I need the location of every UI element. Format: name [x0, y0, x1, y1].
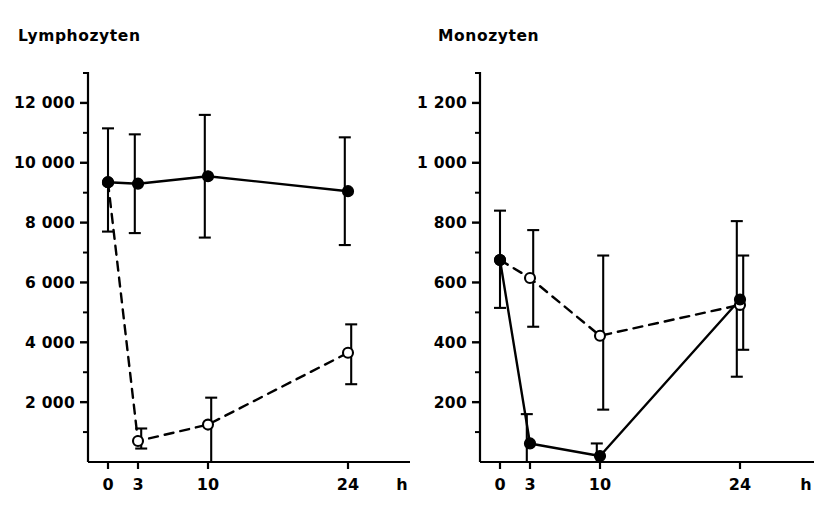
y-axis-tick-label: 2 000	[25, 394, 75, 412]
chart-svg-monozyten: 2004006008001 0001 200031024h	[414, 0, 828, 513]
data-point-filled	[525, 438, 536, 449]
chart-panel-lymphozyten: Lymphozyten 2 0004 0006 0008 00010 00012…	[0, 0, 414, 513]
data-point-filled	[495, 255, 506, 266]
x-axis-unit-label: h	[396, 475, 407, 494]
series-line-open-dashed	[500, 260, 740, 336]
x-axis-tick-label: 3	[132, 475, 143, 494]
x-axis-tick-label: 24	[337, 475, 359, 494]
x-axis-tick-label: 0	[494, 475, 505, 494]
x-axis-tick-label: 24	[729, 475, 751, 494]
x-axis-unit-label: h	[800, 475, 811, 494]
data-point-filled	[203, 171, 214, 182]
y-axis-tick-label: 4 000	[25, 334, 75, 352]
series-line-open-dashed	[108, 182, 348, 441]
y-axis-tick-label: 200	[434, 394, 467, 412]
chart-svg-lymphozyten: 2 0004 0006 0008 00010 00012 000031024h	[0, 0, 414, 513]
data-point-filled	[735, 294, 746, 305]
x-axis-tick-label: 0	[102, 475, 113, 494]
y-axis-tick-label: 1 200	[417, 94, 467, 112]
y-axis-tick-label: 6 000	[25, 274, 75, 292]
y-axis-tick-label: 800	[434, 214, 467, 232]
y-axis-tick-label: 8 000	[25, 214, 75, 232]
data-point-filled	[133, 178, 144, 189]
series-line-filled-solid	[500, 260, 740, 456]
data-point-open	[203, 420, 213, 430]
y-axis-tick-label: 400	[434, 334, 467, 352]
data-point-open	[133, 436, 143, 446]
data-point-filled	[595, 451, 606, 462]
data-point-open	[343, 348, 353, 358]
data-point-filled	[343, 186, 354, 197]
x-axis-tick-label: 3	[524, 475, 535, 494]
x-axis-tick-label: 10	[589, 475, 611, 494]
data-point-filled	[103, 177, 114, 188]
chart-panel-monozyten: Monozyten 2004006008001 0001 200031024h	[414, 0, 828, 513]
y-axis-tick-label: 12 000	[14, 94, 75, 112]
data-point-open	[525, 273, 535, 283]
figure-root: Lymphozyten 2 0004 0006 0008 00010 00012…	[0, 0, 828, 513]
x-axis-tick-label: 10	[197, 475, 219, 494]
data-point-open	[595, 331, 605, 341]
y-axis-tick-label: 1 000	[417, 154, 467, 172]
y-axis-tick-label: 600	[434, 274, 467, 292]
y-axis-tick-label: 10 000	[14, 154, 75, 172]
